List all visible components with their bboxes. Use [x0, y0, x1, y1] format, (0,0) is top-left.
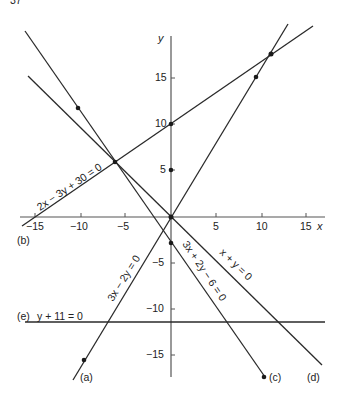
y-tick-label: 5 — [160, 163, 166, 175]
x-tick-label: −10 — [70, 220, 88, 232]
tag-e: (e) — [17, 310, 30, 322]
tag-a: (a) — [80, 371, 93, 383]
x-tick-label: 15 — [300, 220, 312, 232]
x-tick-label: −5 — [117, 220, 129, 232]
y-tick-label: −15 — [146, 348, 164, 360]
y-tick-label: −5 — [152, 256, 164, 268]
y-axis-label: y — [157, 32, 165, 44]
tag-b: (b) — [17, 234, 30, 246]
x-tick-label: 5 — [213, 220, 219, 232]
y-tick-label: −10 — [146, 302, 164, 314]
y-tick-label: 15 — [155, 71, 167, 83]
page-number: 37 — [10, 0, 22, 6]
tag-d: (d) — [307, 371, 320, 383]
marked-points — [76, 52, 274, 380]
equation-label-c: 3x + 2y − 6 = 0 — [180, 238, 229, 303]
x-axis-label: x — [316, 220, 323, 232]
tag-c: (c) — [269, 371, 281, 383]
x-tick-label: 10 — [256, 220, 268, 232]
graph-canvas: 37 y x −15 −10 −5 5 10 15 15 10 5 −5 −10… — [0, 0, 337, 411]
equation-label-e: y + 11 = 0 — [37, 310, 83, 322]
line-c — [25, 31, 265, 377]
equation-label-b: 2x − 3y + 30 = 0 — [34, 160, 104, 212]
equation-label-d: x + y = 0 — [218, 246, 255, 283]
